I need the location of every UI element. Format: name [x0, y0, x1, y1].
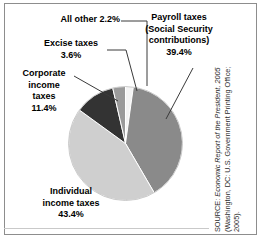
pie-svg: [68, 86, 183, 201]
source-title: Economic Report of the President, 2005: [213, 67, 222, 196]
source-prefix: SOURCE:: [213, 197, 222, 232]
slice-label-individual-income-taxes: Individual income taxes 43.4%: [22, 186, 120, 221]
figure-frame-top: [4, 3, 257, 4]
figure-divider-rule: [4, 228, 209, 229]
slice-label-excise-taxes: Excise taxes 3.6%: [28, 38, 114, 61]
source-citation: SOURCE: Economic Report of the President…: [213, 6, 255, 232]
pie-chart: [68, 86, 183, 201]
slice-label-corporate-income-taxes: Corporate income taxes 11.4%: [10, 68, 78, 114]
slice-label-all-other: All other 2.2%: [22, 14, 120, 26]
pie-chart-figure: All other 2.2% Excise taxes 3.6% Corpora…: [0, 0, 261, 242]
figure-frame-left: [4, 3, 5, 235]
slice-label-payroll-taxes: Payroll taxes (Social Security contribut…: [140, 12, 218, 58]
figure-frame-right: [256, 3, 257, 235]
source-line-1: SOURCE: Economic Report of the President…: [213, 6, 223, 232]
source-line-2: (Washington, DC: U.S. Government Printin…: [223, 6, 233, 232]
source-line-3: 2005).: [232, 6, 242, 232]
figure-frame-bottom: [4, 234, 257, 235]
